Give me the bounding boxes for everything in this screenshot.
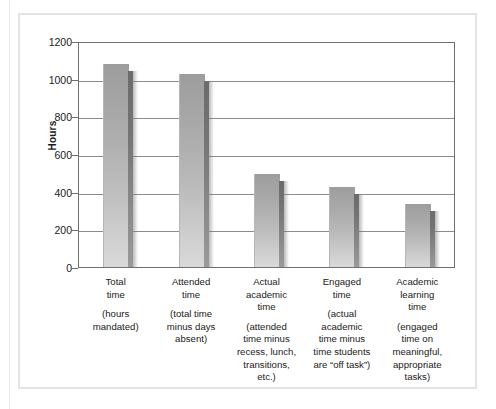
y-tick-mark-600 (72, 155, 78, 156)
bar-face-5 (405, 204, 431, 267)
y-tick-label-600: 600 (32, 150, 72, 161)
y-tick-label-200: 200 (32, 225, 72, 236)
y-tick-mark-1200 (72, 42, 78, 43)
bar-4[interactable] (329, 41, 364, 267)
bar-face-1 (103, 64, 129, 267)
y-tick-mark-0 (72, 268, 78, 269)
bar-face-4 (329, 187, 355, 267)
x-label-sub-2: (total timeminus daysabsent) (150, 308, 231, 346)
y-tick-label-0: 0 (32, 263, 72, 274)
x-label-sub-5: (engagedtime onmeaningful,appropriatetas… (377, 321, 458, 384)
plot-area (78, 42, 455, 268)
bar-face-3 (254, 174, 280, 267)
x-label-head-4: Engagedtime (301, 276, 382, 301)
y-tick-label-400: 400 (32, 187, 72, 198)
y-tick-mark-400 (72, 193, 78, 194)
bar-shadow-4 (359, 194, 364, 267)
bar-face-2 (179, 74, 205, 267)
bar-shadow-1 (133, 71, 138, 267)
bar-1[interactable] (103, 41, 138, 267)
bar-2[interactable] (179, 41, 214, 267)
y-tick-label-800: 800 (32, 112, 72, 123)
y-tick-mark-1000 (72, 80, 78, 81)
x-label-1: Totaltime(hoursmandated) (75, 276, 156, 333)
bar-shadow-2 (209, 81, 214, 267)
x-label-head-3: Actualacademictime (226, 276, 307, 314)
bar-shadow-3 (284, 181, 289, 267)
bar-5[interactable] (405, 41, 440, 267)
y-tick-mark-200 (72, 230, 78, 231)
x-label-head-2: Attendedtime (150, 276, 231, 301)
x-axis-category-labels: Totaltime(hoursmandated)Attendedtime(tot… (78, 276, 455, 396)
bar-shadow-5 (435, 211, 440, 267)
x-label-head-1: Totaltime (75, 276, 156, 301)
x-label-sub-3: (attendedtime minusrecess, lunch,transit… (226, 321, 307, 384)
y-tick-label-1000: 1000 (32, 74, 72, 85)
x-label-2: Attendedtime(total timeminus daysabsent) (150, 276, 231, 346)
x-label-head-5: Academiclearningtime (377, 276, 458, 314)
y-axis-tick-labels: 120010008006004002000 (26, 42, 72, 268)
x-label-3: Actualacademictime(attendedtime minusrec… (226, 276, 307, 384)
bar-3[interactable] (254, 41, 289, 267)
x-label-5: Academiclearningtime(engagedtime onmeani… (377, 276, 458, 384)
y-tick-label-1200: 1200 (32, 37, 72, 48)
page-edge-rule (9, 0, 10, 409)
x-label-sub-1: (hoursmandated) (75, 308, 156, 333)
x-label-sub-4: (actualacademictime minustime studentsar… (301, 308, 382, 371)
y-tick-mark-800 (72, 117, 78, 118)
x-label-4: Engagedtime(actualacademictime minustime… (301, 276, 382, 371)
